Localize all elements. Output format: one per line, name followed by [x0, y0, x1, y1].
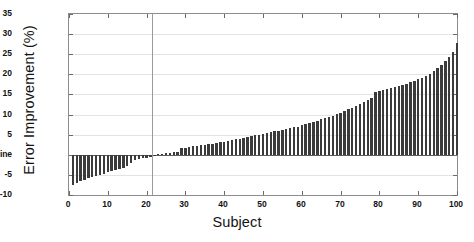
bar — [394, 87, 396, 155]
bar — [223, 142, 225, 155]
bar — [188, 147, 190, 155]
bar — [390, 88, 392, 155]
bar — [76, 155, 78, 183]
bar — [448, 57, 450, 155]
bar — [433, 71, 435, 155]
bar — [110, 155, 112, 171]
bar — [425, 76, 427, 155]
bar — [227, 141, 229, 155]
bar — [165, 153, 167, 155]
bar — [421, 78, 423, 155]
bar — [452, 52, 454, 155]
bar — [444, 61, 446, 154]
bar — [456, 43, 458, 155]
bar — [401, 85, 403, 155]
bar — [339, 113, 341, 155]
bar — [122, 155, 124, 168]
bar — [99, 155, 101, 175]
bar — [149, 155, 151, 157]
bar — [258, 135, 260, 155]
y-tick-label: 25 — [0, 49, 12, 58]
bar — [239, 139, 241, 155]
bar — [289, 128, 291, 155]
bar — [367, 100, 369, 155]
bar — [204, 145, 206, 155]
x-tick-label: 0 — [53, 199, 83, 209]
bar — [332, 116, 334, 155]
bar — [312, 122, 314, 155]
bar — [145, 155, 147, 158]
bar — [440, 65, 442, 155]
bar — [169, 153, 171, 155]
bar — [126, 155, 128, 167]
bar — [161, 154, 163, 155]
bar — [254, 135, 256, 154]
bar — [270, 132, 272, 155]
bar — [398, 86, 400, 155]
bar — [211, 144, 213, 155]
bar — [343, 111, 345, 155]
bar — [386, 89, 388, 155]
bar — [142, 155, 144, 159]
y-tick-label: 10 — [0, 110, 12, 119]
bar — [207, 144, 209, 155]
bar — [219, 142, 221, 154]
bar — [405, 84, 407, 155]
x-tick-label: 100 — [441, 199, 471, 209]
bar — [355, 106, 357, 155]
bar — [304, 124, 306, 155]
y-tick-label: 15 — [0, 89, 12, 98]
bar — [87, 155, 89, 179]
bar — [363, 102, 365, 155]
bar — [320, 119, 322, 154]
bar — [79, 155, 81, 182]
bar — [370, 98, 372, 155]
bar — [293, 127, 295, 154]
bar — [235, 139, 237, 154]
x-tick-label: 80 — [363, 199, 393, 209]
bar-series — [69, 14, 457, 195]
x-tick-mark — [457, 14, 458, 18]
x-tick-mark — [457, 191, 458, 195]
bar — [83, 155, 85, 180]
bar — [273, 131, 275, 154]
bar — [281, 130, 283, 155]
x-tick-label: 30 — [169, 199, 199, 209]
bar — [277, 131, 279, 155]
bar — [184, 148, 186, 155]
bar — [130, 155, 132, 163]
x-tick-label: 60 — [286, 199, 316, 209]
bar — [336, 114, 338, 155]
bar — [107, 155, 109, 173]
bar — [91, 155, 93, 178]
bar — [114, 155, 116, 170]
bar — [429, 74, 431, 155]
y-tick-label: 30 — [0, 29, 12, 38]
bar — [316, 121, 318, 155]
bar — [72, 155, 74, 185]
y-tick-mark — [69, 195, 73, 196]
bar — [95, 155, 97, 176]
x-tick-label: 20 — [131, 199, 161, 209]
bar — [250, 136, 252, 155]
bar — [103, 155, 105, 174]
y-tick-mark — [453, 195, 457, 196]
bar — [118, 155, 120, 169]
bar — [242, 138, 244, 155]
y-tick-label: 35 — [0, 9, 12, 18]
x-axis-title: Subject — [0, 214, 474, 230]
y-tick-label: 5 — [0, 130, 12, 139]
bar — [266, 133, 268, 155]
bar — [359, 104, 361, 155]
plot-area — [68, 13, 458, 196]
y-tick-label: 20 — [0, 69, 12, 78]
bar — [378, 91, 380, 155]
bar — [328, 117, 330, 155]
bar — [196, 146, 198, 155]
chart-figure: Error Improvement (%) -10-5Baseline51015… — [0, 0, 474, 242]
y-tick-label: -10 — [0, 190, 12, 199]
bar — [138, 155, 140, 159]
bar — [285, 129, 287, 155]
bar — [262, 134, 264, 155]
bar — [180, 148, 182, 154]
